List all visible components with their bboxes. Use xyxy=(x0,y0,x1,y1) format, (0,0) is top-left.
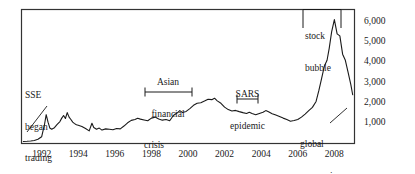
y-tick-label-1000: 1,000 xyxy=(364,117,385,127)
x-tick-label-2008: 2008 xyxy=(317,149,351,159)
annotation-line-epidemic: epidemic xyxy=(229,121,266,132)
x-tick-label-2000: 2000 xyxy=(171,149,205,159)
y-tick-label-6000: 6,000 xyxy=(364,16,385,26)
x-tick-label-1994: 1994 xyxy=(61,149,95,159)
annotation-line-stock: stock xyxy=(305,31,331,42)
chart-figure: SSE began trading Asian financial crisis… xyxy=(0,0,415,173)
annotation-line-asian: Asian xyxy=(144,77,192,88)
annotation-sars-epidemic: SARS epidemic xyxy=(229,68,266,152)
x-tick-label-2004: 2004 xyxy=(244,149,278,159)
x-tick-label-2002: 2002 xyxy=(208,149,242,159)
x-tick-label-1996: 1996 xyxy=(98,149,132,159)
y-tick-label-2000: 2,000 xyxy=(364,97,385,107)
annotation-line-sse: SSE xyxy=(25,90,52,101)
annotation-line-economic: economic xyxy=(300,171,337,174)
annotation-line-began: began xyxy=(25,122,52,133)
x-tick-label-2006: 2006 xyxy=(281,149,315,159)
annotation-stock-bubble: stock bubble xyxy=(305,10,331,94)
y-tick-label-4000: 4,000 xyxy=(364,56,385,66)
annotation-line-financial: financial xyxy=(144,109,192,120)
x-tick-label-1992: 1992 xyxy=(25,149,59,159)
annotation-line-bubble: bubble xyxy=(305,63,331,74)
annotation-line-global: global xyxy=(300,139,337,150)
y-tick-label-5000: 5,000 xyxy=(364,36,385,46)
y-tick-label-3000: 3,000 xyxy=(364,77,385,87)
sse-index-line-chart xyxy=(0,0,415,173)
annotation-global-economic-crisis: global economic crisis xyxy=(300,118,337,173)
annotation-line-sars: SARS xyxy=(229,89,266,100)
x-tick-label-1998: 1998 xyxy=(134,149,168,159)
